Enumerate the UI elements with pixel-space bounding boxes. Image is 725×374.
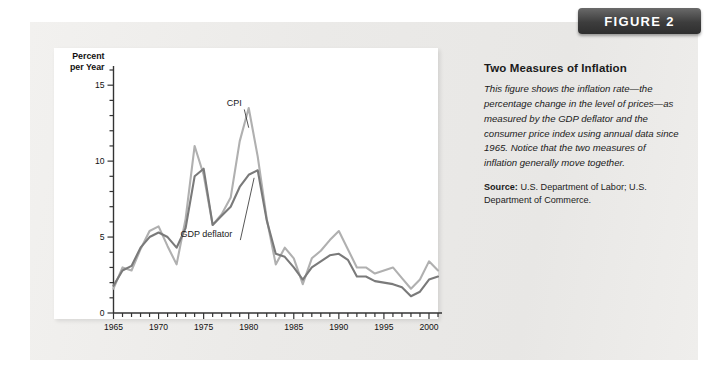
y-tick-label: 15 bbox=[95, 80, 105, 90]
caption-block: Two Measures of Inflation This figure sh… bbox=[484, 62, 680, 208]
series-line-cpi bbox=[114, 108, 439, 289]
annotation-label-cpi: CPI bbox=[227, 98, 242, 108]
caption-source-label: Source: bbox=[484, 182, 518, 192]
caption-body: This figure shows the inflation rate—the… bbox=[484, 82, 680, 171]
annotation-label-gdp-deflator: GDP deflator bbox=[180, 229, 232, 239]
caption-title: Two Measures of Inflation bbox=[484, 62, 680, 74]
y-tick-label: 5 bbox=[100, 232, 105, 242]
x-tick-label: 1970 bbox=[149, 322, 168, 332]
y-axis-title: Percent bbox=[72, 51, 104, 61]
x-tick-label: 1990 bbox=[329, 322, 348, 332]
y-axis-title: per Year bbox=[70, 62, 105, 72]
annotation-leader-line bbox=[240, 178, 254, 240]
x-tick-label: 1980 bbox=[239, 322, 258, 332]
figure-badge-label: FIGURE 2 bbox=[604, 14, 674, 29]
x-tick-label: 1985 bbox=[284, 322, 303, 332]
y-tick-label: 10 bbox=[95, 156, 105, 166]
y-tick-label: 0 bbox=[100, 308, 105, 318]
caption-source: Source: U.S. Department of Labor; U.S. D… bbox=[484, 181, 680, 207]
figure-badge: FIGURE 2 bbox=[578, 8, 701, 34]
x-tick-label: 1975 bbox=[194, 322, 213, 332]
x-tick-label: 1995 bbox=[374, 322, 393, 332]
x-tick-label: 2000 bbox=[419, 322, 438, 332]
x-tick-label: 1965 bbox=[104, 322, 123, 332]
